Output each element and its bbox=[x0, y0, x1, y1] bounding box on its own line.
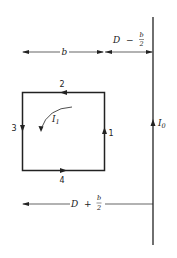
svg-text:−: − bbox=[126, 35, 134, 45]
svg-text:D: D bbox=[112, 35, 120, 45]
side-3-arrow-icon bbox=[20, 125, 25, 132]
dimension-b-label: b bbox=[62, 47, 68, 57]
svg-text:b: b bbox=[97, 194, 101, 202]
wire-current-label: I0 bbox=[157, 118, 166, 130]
side-3-label: 3 bbox=[11, 124, 16, 133]
svg-text:b: b bbox=[139, 31, 143, 39]
side-2-arrow-icon bbox=[60, 90, 67, 95]
dimension-gap-bottom-label: D + b 2 bbox=[70, 194, 102, 212]
side-1-arrow-icon bbox=[102, 127, 107, 134]
side-1-label: 1 bbox=[108, 129, 113, 138]
svg-text:+: + bbox=[84, 199, 92, 209]
side-2-label: 2 bbox=[59, 80, 64, 89]
side-4-label: 4 bbox=[59, 176, 64, 185]
square-loop bbox=[20, 90, 107, 173]
svg-text:2: 2 bbox=[96, 204, 101, 212]
loop-wire-diagram: I0 2 3 1 4 I1 b D − b 2 bbox=[0, 0, 177, 258]
loop-current-arrow-icon bbox=[39, 126, 44, 132]
straight-wire bbox=[151, 17, 156, 245]
svg-text:2: 2 bbox=[138, 40, 143, 48]
loop-current-label: I1 bbox=[51, 114, 60, 126]
dimension-gap-top-label: D − b 2 bbox=[112, 31, 144, 48]
svg-text:D: D bbox=[70, 199, 78, 209]
dimension-gap-top bbox=[105, 50, 153, 54]
side-4-arrow-icon bbox=[60, 168, 67, 173]
wire-current-arrow-icon bbox=[151, 119, 156, 126]
